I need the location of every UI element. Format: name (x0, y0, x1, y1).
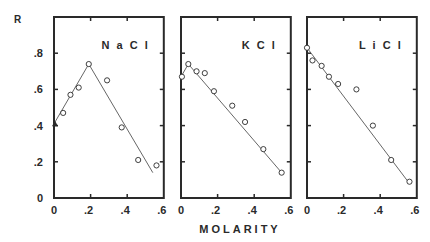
figure: R 0.2.4.6.8 0.2.4.6N a C l0.2.4.6K C l0.… (0, 0, 430, 242)
x-tick-label: .4 (121, 204, 131, 216)
x-tick-label: 0 (178, 204, 184, 216)
data-point (154, 163, 159, 168)
panel-licl: 0.2.4.6L i C l (304, 17, 419, 216)
data-point (389, 157, 394, 162)
panel-title: N a C l (102, 39, 150, 51)
panel-title: K C l (242, 39, 277, 51)
panels: 0.2.4.6N a C l0.2.4.6K C l0.2.4.6L i C l (51, 17, 419, 216)
data-point (310, 58, 315, 63)
data-point (319, 63, 324, 68)
data-point (52, 121, 58, 127)
data-point (354, 87, 359, 92)
data-point (242, 119, 247, 124)
y-tick-label: .4 (34, 120, 44, 132)
x-tick-label: .4 (374, 204, 384, 216)
data-point (136, 157, 141, 162)
y-tick-label: .8 (34, 47, 43, 59)
x-tick-label: .2 (84, 204, 93, 216)
data-point (336, 81, 341, 86)
x-tick-label: .6 (410, 204, 419, 216)
y-tick-label: .6 (34, 83, 43, 95)
x-tick-label: .4 (248, 204, 258, 216)
y-axis-label: R (14, 14, 22, 25)
data-point (230, 103, 235, 108)
data-point (407, 179, 412, 184)
fit-line (181, 64, 282, 173)
data-point (179, 74, 184, 79)
fit-line (54, 64, 153, 173)
data-point (76, 85, 81, 90)
data-point (370, 123, 375, 128)
data-point (326, 74, 331, 79)
data-point (279, 170, 284, 175)
x-tick-label: .2 (337, 204, 346, 216)
x-tick-label: .2 (211, 204, 220, 216)
data-point (211, 89, 216, 94)
x-tick-label: .6 (284, 204, 293, 216)
x-tick-label: .6 (157, 204, 166, 216)
data-point (119, 125, 124, 130)
data-point (61, 110, 66, 115)
data-point (86, 61, 91, 66)
y-tick-labels: 0.2.4.6.8 (34, 47, 44, 204)
x-axis-label: MOLARITY (199, 223, 280, 235)
x-tick-label: 0 (51, 204, 57, 216)
data-point (261, 147, 266, 152)
panel-kcl: 0.2.4.6K C l (178, 17, 293, 216)
panel-title: L i C l (359, 39, 403, 51)
y-tick-label: 0 (37, 192, 43, 204)
data-point (202, 71, 207, 76)
y-tick-label: .2 (34, 156, 43, 168)
panel-nacl: 0.2.4.6N a C l (51, 17, 166, 216)
data-point (304, 45, 309, 50)
x-tick-label: 0 (304, 204, 310, 216)
data-point (68, 92, 73, 97)
data-point (186, 61, 191, 66)
data-point (194, 69, 199, 74)
data-point (104, 78, 109, 83)
